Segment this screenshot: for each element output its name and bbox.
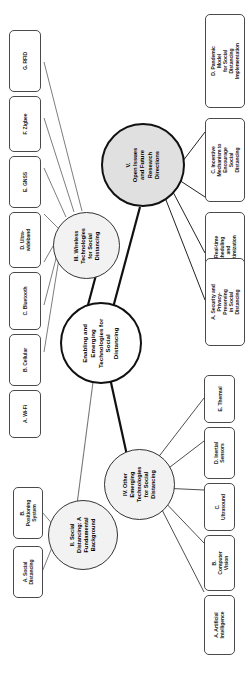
node-section-iv-label: IV. Other Emerging Technologies for Soci… bbox=[122, 467, 157, 503]
leaf-inertial-sensors[interactable]: D. Inertial Sensors bbox=[204, 427, 235, 479]
leaf-cellular[interactable]: B. Cellular bbox=[9, 334, 41, 386]
leaf-computer-vision[interactable]: B. Computer Vision bbox=[204, 535, 235, 591]
leaf-pandemic-model[interactable]: D. Pandemic Model for Social Distancing … bbox=[205, 14, 245, 108]
node-section-iv[interactable]: IV. Other Emerging Technologies for Soci… bbox=[104, 449, 175, 520]
node-root-label: Enabling and Emerging Technologies for S… bbox=[82, 318, 121, 367]
leaf-thermal[interactable]: E. Thermal bbox=[204, 375, 235, 423]
edge-root-to-section-iv bbox=[110, 378, 128, 460]
leaf-social-distancing[interactable]: A. Social Distancing bbox=[13, 546, 43, 598]
edges-section-iii bbox=[44, 62, 82, 352]
node-section-iii-label: III. Wireless Technologies for Social Di… bbox=[73, 228, 101, 264]
node-section-v[interactable]: V. Open Issues and Future Research Direc… bbox=[101, 123, 185, 207]
node-root[interactable]: Enabling and Emerging Technologies for S… bbox=[60, 302, 142, 384]
leaf-bluetooth[interactable]: C. Bluetooth bbox=[9, 272, 41, 330]
node-section-iii[interactable]: III. Wireless Technologies for Social Di… bbox=[53, 212, 120, 279]
leaf-incentive-mechanism[interactable]: C. Incentive Mechanism to Encourage Soci… bbox=[205, 118, 245, 202]
edge-root-to-section-ii bbox=[76, 382, 93, 512]
leaf-ultra-wideband[interactable]: D. Ultra- wideband bbox=[9, 212, 41, 268]
leaf-security-privacy[interactable]: A. Security and Privacy-Preserving in So… bbox=[205, 258, 245, 346]
leaf-positioning-system[interactable]: B. Positioning System bbox=[13, 487, 43, 539]
leaf-rfid[interactable]: G. RFID bbox=[9, 30, 41, 92]
node-section-v-label: V. Open Issues and Future Research Direc… bbox=[125, 148, 161, 182]
leaf-gnss[interactable]: E. GNSS bbox=[9, 156, 41, 208]
mindmap-canvas: V. Open Issues and Future Research Direc… bbox=[0, 0, 248, 688]
node-section-ii-label: II. Social Distancing: A Fundamental Bac… bbox=[69, 517, 97, 553]
leaf-zigbee[interactable]: F. Zigbee bbox=[9, 96, 41, 152]
node-section-ii[interactable]: II. Social Distancing: A Fundamental Bac… bbox=[48, 500, 118, 570]
leaf-wifi[interactable]: A. Wi-Fi bbox=[9, 390, 41, 438]
leaf-artificial-intelligence[interactable]: A. Artificial Intelligence bbox=[204, 595, 235, 655]
leaf-ultrasound[interactable]: C. Ultrasound bbox=[204, 483, 235, 531]
